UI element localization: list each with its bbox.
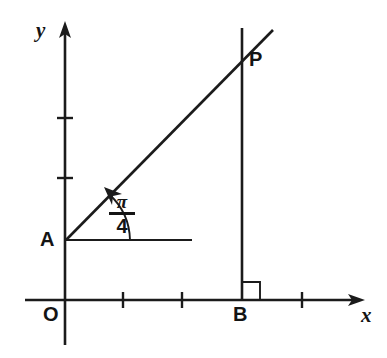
- angle-denominator: 4: [104, 216, 140, 236]
- x-axis-label: x: [361, 305, 372, 326]
- point-label-A: A: [40, 229, 54, 249]
- right-angle-marker-at-B: [242, 282, 260, 300]
- point-label-P: P: [249, 49, 262, 69]
- point-label-B: B: [233, 304, 247, 324]
- x-axis-group: [25, 292, 365, 308]
- angle-value-fraction: π 4: [104, 192, 140, 236]
- geometry-diagram: y x O A B P π 4: [0, 0, 387, 358]
- origin-label: O: [43, 304, 59, 324]
- angle-numerator: π: [104, 192, 140, 211]
- y-axis-group: [57, 21, 73, 345]
- y-axis-label: y: [36, 20, 45, 41]
